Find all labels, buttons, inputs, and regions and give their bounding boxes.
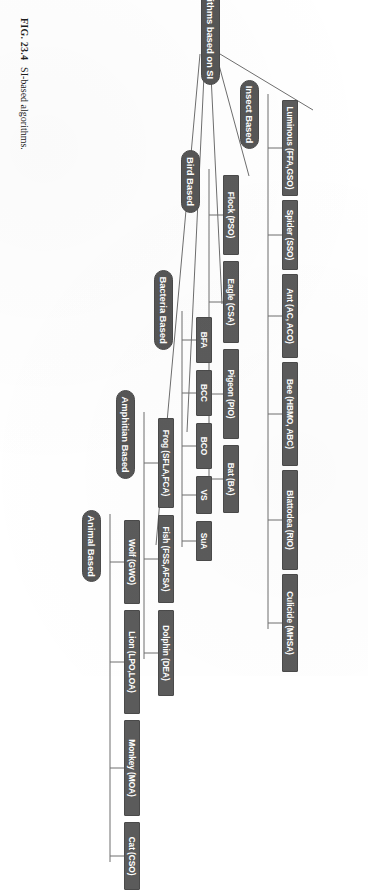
si-algorithm-tree-diagram: Algorithms based on SI Insect Based Bird… xyxy=(38,0,368,676)
leaf-bird-eagle[interactable]: Eagle (CSA) xyxy=(223,261,239,343)
node-root-label: Algorithms based on SI xyxy=(206,0,216,79)
leaf-animal-wolf[interactable]: Wolf (GWO) xyxy=(124,520,140,604)
leaf-insect-ant[interactable]: Ant (AC, ACO) xyxy=(282,274,298,358)
leaf-label: SuA xyxy=(200,533,209,549)
leaf-label: BFA xyxy=(200,332,209,348)
node-category-insect-label: Insect Based xyxy=(245,86,255,143)
leaf-insect-spider[interactable]: Spider (SSO) xyxy=(282,200,298,270)
leaf-label: Flock (PSO) xyxy=(227,192,236,238)
leaf-label: Bat (BA) xyxy=(227,463,236,496)
node-category-bacteria[interactable]: Bacteria Based xyxy=(154,270,173,350)
edge-root-insect xyxy=(220,54,313,110)
node-category-amphitian[interactable]: Amphitian Based xyxy=(116,390,135,479)
leaf-label: Frog (SFLA,FCA) xyxy=(162,430,171,496)
leaf-bird-flock[interactable]: Flock (PSO) xyxy=(223,175,239,255)
leaf-bird-bat[interactable]: Bat (BA) xyxy=(223,445,239,513)
leaf-label: Blattodea (RIO) xyxy=(286,490,295,549)
leaf-amphitian-fish[interactable]: Fish (FSS,AFSA) xyxy=(158,515,174,603)
edge-root-bacteria xyxy=(210,54,222,304)
leaf-label: Wolf (GWO) xyxy=(128,539,137,585)
leaf-amphitian-dolphin[interactable]: Dolphin (DEA) xyxy=(158,610,174,696)
node-category-bird[interactable]: Bird Based xyxy=(181,150,200,213)
figure-caption: FIG. 23.4SI-based algorithms. xyxy=(19,18,30,150)
node-category-bacteria-label: Bacteria Based xyxy=(159,276,169,343)
leaf-label: Luminous (FFA,GSO) xyxy=(286,107,295,190)
figure-caption-text: SI-based algorithms. xyxy=(19,67,30,150)
leaf-amphitian-frog[interactable]: Frog (SFLA,FCA) xyxy=(158,418,174,508)
leaf-label: Dolphin (DEA) xyxy=(162,625,171,680)
leaf-insect-culicide[interactable]: Culicide (MHSA) xyxy=(282,574,298,672)
figure-caption-number: FIG. 23.4 xyxy=(19,18,30,60)
leaf-animal-lion[interactable]: Lion (LPO,LOA) xyxy=(124,610,140,714)
leaf-label: Pigeon (PIO) xyxy=(227,369,236,418)
leaf-bacteria-bco[interactable]: BCO xyxy=(196,423,212,469)
node-root[interactable]: Algorithms based on SI xyxy=(201,0,220,85)
node-category-insect[interactable]: Insect Based xyxy=(240,80,259,149)
node-category-animal-label: Animal Based xyxy=(87,515,97,577)
leaf-label: Monkey (MOA) xyxy=(128,739,137,796)
leaf-label: Culicide (MHSA) xyxy=(286,591,295,655)
leaf-bacteria-sua[interactable]: SuA xyxy=(196,521,212,561)
leaf-label: Ant (AC, ACO) xyxy=(286,288,295,344)
leaf-animal-monkey[interactable]: Monkey (MOA) xyxy=(124,720,140,816)
leaf-label: BCC xyxy=(200,384,209,402)
leaf-label: BCO xyxy=(200,437,209,455)
leaf-insect-bee[interactable]: Bee (HBMO, ABC) xyxy=(282,362,298,466)
node-category-bird-label: Bird Based xyxy=(186,157,196,206)
leaf-label: Eagle (CSA) xyxy=(227,279,236,326)
leaf-bacteria-bcc[interactable]: BCC xyxy=(196,370,212,416)
leaf-label: VS xyxy=(200,490,209,501)
leaf-insect-blattodea[interactable]: Blattodea (RIO) xyxy=(282,470,298,570)
leaf-insect-luminous[interactable]: Luminous (FFA,GSO) xyxy=(282,100,298,196)
leaf-label: Cat (CSO) xyxy=(128,837,137,876)
leaf-label: Fish (FSS,AFSA) xyxy=(162,526,171,591)
leaf-bacteria-bfa[interactable]: BFA xyxy=(196,317,212,363)
leaf-bird-pigeon[interactable]: Pigeon (PIO) xyxy=(223,349,239,439)
leaf-bacteria-vs[interactable]: VS xyxy=(196,476,212,514)
leaf-animal-cat[interactable]: Cat (CSO) xyxy=(124,822,140,890)
leaf-label: Bee (HBMO, ABC) xyxy=(286,379,295,449)
leaf-label: Spider (SSO) xyxy=(286,210,295,260)
node-category-animal[interactable]: Animal Based xyxy=(82,510,101,582)
leaf-label: Lion (LPO,LOA) xyxy=(128,631,137,692)
node-category-amphitian-label: Amphitian Based xyxy=(121,396,131,472)
